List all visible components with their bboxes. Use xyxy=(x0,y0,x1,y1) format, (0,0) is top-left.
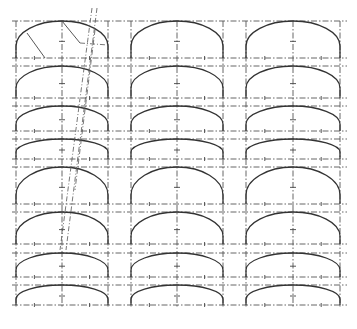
dash-dot-guide-grid xyxy=(12,21,347,307)
leader-line xyxy=(80,43,108,45)
construction-lines xyxy=(27,8,108,250)
radius-line xyxy=(62,21,80,43)
arch-profile-drawing xyxy=(0,0,357,329)
arch-curves xyxy=(16,21,340,307)
radius-line xyxy=(27,33,45,58)
